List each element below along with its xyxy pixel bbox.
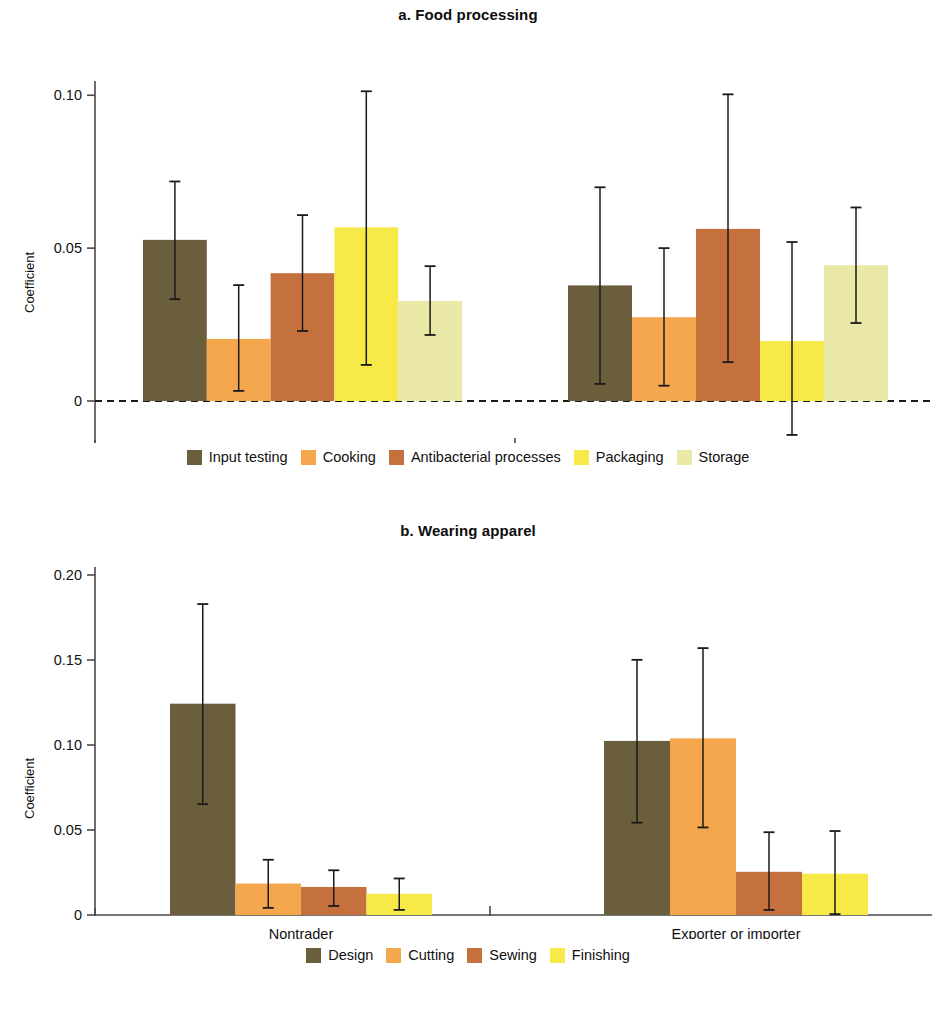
legend-swatch-icon	[301, 450, 316, 465]
legend-item[interactable]: Storage	[677, 449, 750, 465]
panel-a-chart-svg: 0.100.050NontraderExporter or importer	[0, 23, 936, 443]
legend-item[interactable]: Cooking	[301, 449, 376, 465]
legend-item[interactable]: Packaging	[574, 449, 664, 465]
y-axis-tick-label: 0.10	[54, 737, 82, 753]
panel-a-legend: Input testingCookingAntibacterial proces…	[0, 449, 936, 465]
legend-swatch-icon	[550, 948, 565, 963]
y-axis-tick-label: 0.10	[54, 87, 82, 103]
legend-item-label: Design	[328, 947, 373, 963]
panel-b-title: b. Wearing apparel	[0, 512, 936, 539]
legend-item[interactable]: Design	[306, 947, 373, 963]
legend-item[interactable]: Sewing	[467, 947, 537, 963]
legend-item-label: Input testing	[209, 449, 288, 465]
panel-a-y-axis-label: Coefficient	[22, 252, 37, 313]
legend-item[interactable]: Finishing	[550, 947, 630, 963]
y-axis-tick-label: 0	[74, 393, 82, 409]
legend-item-label: Cooking	[323, 449, 376, 465]
y-axis-tick-label: 0.15	[54, 652, 82, 668]
panel-b-chart-svg: 0.200.150.100.050NontraderExporter or im…	[0, 539, 936, 939]
category-axis-label: Nontrader	[269, 926, 334, 939]
legend-swatch-icon	[386, 948, 401, 963]
panel-food-processing: a. Food processing Coefficient 0.100.050…	[0, 0, 936, 512]
panel-wearing-apparel: b. Wearing apparel Coefficient 0.200.150…	[0, 512, 936, 1011]
panel-a-plot-area: Coefficient 0.100.050NontraderExporter o…	[0, 23, 936, 443]
legend-item[interactable]: Cutting	[386, 947, 454, 963]
panel-b-legend: DesignCuttingSewingFinishing	[0, 947, 936, 963]
y-axis-tick-label: 0	[74, 907, 82, 923]
legend-swatch-icon	[306, 948, 321, 963]
category-axis-label: Exporter or importer	[672, 926, 801, 939]
legend-swatch-icon	[467, 948, 482, 963]
legend-item-label: Packaging	[596, 449, 664, 465]
panel-b-plot-area: Coefficient 0.200.150.100.050NontraderEx…	[0, 539, 936, 939]
legend-swatch-icon	[389, 450, 404, 465]
legend-swatch-icon	[574, 450, 589, 465]
legend-item-label: Antibacterial processes	[411, 449, 561, 465]
legend-swatch-icon	[187, 450, 202, 465]
legend-swatch-icon	[677, 450, 692, 465]
legend-item[interactable]: Antibacterial processes	[389, 449, 561, 465]
legend-item-label: Sewing	[489, 947, 537, 963]
y-axis-tick-label: 0.05	[54, 240, 82, 256]
legend-item-label: Storage	[699, 449, 750, 465]
panel-a-title: a. Food processing	[0, 0, 936, 23]
legend-item-label: Cutting	[408, 947, 454, 963]
y-axis-tick-label: 0.20	[54, 567, 82, 583]
y-axis-tick-label: 0.05	[54, 822, 82, 838]
legend-item[interactable]: Input testing	[187, 449, 288, 465]
legend-item-label: Finishing	[572, 947, 630, 963]
panel-b-y-axis-label: Coefficient	[22, 758, 37, 819]
error-bar	[787, 242, 798, 435]
